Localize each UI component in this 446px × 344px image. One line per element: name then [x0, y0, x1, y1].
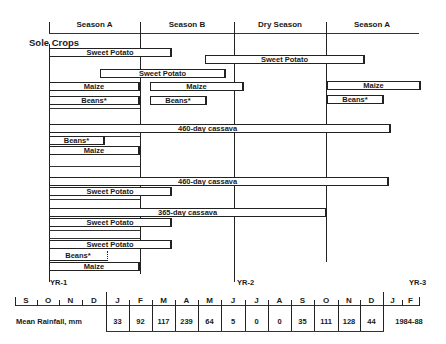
season-b-label: Season B	[140, 20, 234, 29]
month-label: J	[383, 296, 402, 305]
crop-bar-maize: Maize	[49, 82, 140, 91]
rainfall-value: 0	[245, 317, 268, 326]
month-label: S	[291, 296, 314, 305]
month-label: O	[37, 296, 59, 305]
crop-bar-cassava-365: 365-day cassava	[49, 208, 327, 217]
month-label: J	[221, 296, 245, 305]
month-label: D	[82, 296, 106, 305]
month-label: O	[314, 296, 338, 305]
month-label: D	[360, 296, 383, 305]
rainfall-bottom-line	[106, 331, 384, 332]
year-label-1: YR-1	[50, 278, 67, 287]
rainfall-value: 44	[360, 317, 383, 326]
rainfall-label: Mean Rainfall, mm	[16, 317, 82, 326]
month-label: A	[175, 296, 198, 305]
rainfall-value: 0	[268, 317, 291, 326]
month-label: N	[59, 296, 82, 305]
row-separator	[49, 108, 140, 109]
month-label: M	[152, 296, 175, 305]
crop-bar-sweet-potato: Sweet Potato	[49, 48, 172, 57]
month-label: F	[129, 296, 152, 305]
row-separator	[49, 199, 140, 200]
season-a2-label: Season A	[326, 20, 418, 29]
crop-bar-sweet-potato: Sweet Potato	[49, 240, 172, 249]
crop-bar-maize: Maize	[49, 146, 140, 155]
crop-bar-cassava-460: 460-day cassava	[49, 124, 391, 133]
crop-bar-beans: Beans*	[49, 251, 108, 261]
crop-bar-sweet-potato: Sweet Potato	[100, 69, 226, 78]
crop-bar-cassava-460: 460-day cassava	[49, 177, 389, 186]
crop-bar-beans: Beans*	[49, 136, 105, 145]
rainfall-value: 92	[129, 317, 152, 326]
month-label: J	[245, 296, 268, 305]
crop-bar-beans: Beans*	[150, 96, 207, 105]
crop-bar-maize: Maize	[150, 82, 244, 91]
rainfall-period: 1984-88	[386, 317, 432, 326]
rainfall-value: 35	[291, 317, 314, 326]
month-label: A	[268, 296, 291, 305]
row-separator	[49, 238, 140, 239]
row-separator	[105, 136, 140, 137]
month-label: F	[402, 296, 419, 305]
crop-bar-sweet-potato: Sweet Potato	[49, 218, 172, 227]
crop-bar-maize: Maize	[327, 81, 421, 90]
rainfall-value: 64	[198, 317, 221, 326]
dry-season-label: Dry Season	[234, 20, 326, 29]
rainfall-value: 5	[221, 317, 245, 326]
row-separator	[49, 230, 140, 231]
rainfall-value: 117	[152, 317, 175, 326]
divider-a-b	[140, 22, 141, 274]
month-label: N	[338, 296, 360, 305]
crop-bar-sweet-potato: Sweet Potato	[49, 187, 172, 196]
rainfall-value: 33	[106, 317, 129, 326]
month-label: M	[198, 296, 221, 305]
rainfall-value: 128	[338, 317, 360, 326]
season-a-label: Season A	[49, 20, 140, 29]
month-tick	[419, 297, 420, 306]
row-separator	[49, 166, 140, 167]
month-label: S	[15, 296, 37, 305]
rainfall-value: 111	[314, 317, 338, 326]
crop-bar-beans: Beans*	[49, 96, 140, 105]
year-label-3: YR-3	[409, 278, 426, 287]
crop-bar-sweet-potato: Sweet Potato	[205, 55, 365, 64]
sole-crops-title: Sole Crops	[29, 37, 79, 48]
year-label-2: YR-2	[237, 278, 254, 287]
crop-bar-beans: Beans*	[327, 95, 384, 104]
rainfall-value: 239	[175, 317, 198, 326]
crop-bar-maize: Maize	[49, 262, 140, 271]
month-label: J	[106, 296, 129, 305]
